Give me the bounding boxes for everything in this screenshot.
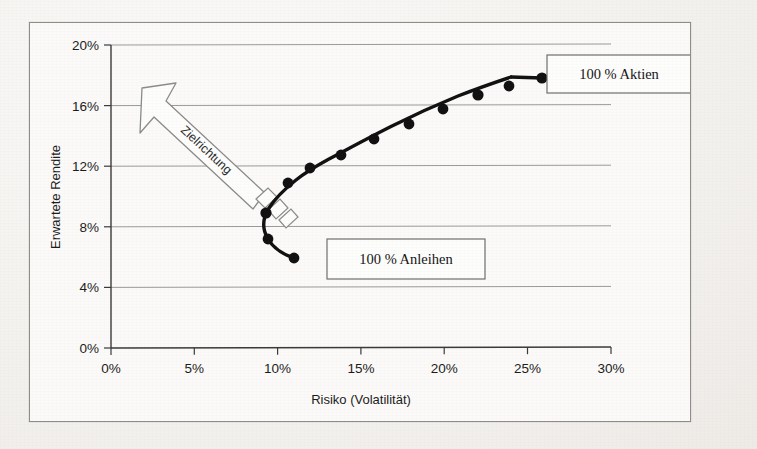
xtick-label-5: 5%: [185, 361, 205, 376]
data-point: [438, 104, 449, 115]
gridline-20: [111, 44, 611, 45]
callout-anleihen: 100 % Anleihen: [327, 239, 485, 279]
x-axis-title: Risiko (Volatilität): [311, 392, 411, 407]
y-axis-ticks: [104, 45, 111, 348]
chart-figure-frame: 20% 16% 12% 8% 4% 0% 0% 5% 10% 15% 20% 2…: [29, 22, 691, 422]
data-point: [289, 253, 300, 264]
y-axis-tick-labels: 20% 16% 12% 8% 4% 0%: [72, 38, 99, 356]
ytick-label-12: 12%: [72, 159, 99, 174]
xtick-label-10: 10%: [264, 361, 291, 376]
data-point: [336, 150, 347, 161]
data-point: [504, 81, 515, 92]
callout-aktien: 100 % Aktien: [547, 55, 690, 93]
efficient-frontier-chart: 20% 16% 12% 8% 4% 0% 0% 5% 10% 15% 20% 2…: [30, 23, 690, 421]
callout-anleihen-label: 100 % Anleihen: [359, 251, 453, 267]
chart-plot-wrapper: 20% 16% 12% 8% 4% 0% 0% 5% 10% 15% 20% 2…: [30, 23, 690, 421]
ytick-label-4: 4%: [79, 280, 99, 295]
callout-aktien-label: 100 % Aktien: [579, 66, 659, 82]
x-axis-tick-labels: 0% 5% 10% 15% 20% 25% 30%: [101, 361, 624, 376]
data-point: [283, 178, 294, 189]
data-point: [305, 163, 316, 174]
xtick-label-30: 30%: [597, 361, 624, 376]
data-point: [263, 234, 274, 245]
xtick-label-0: 0%: [101, 361, 121, 376]
data-point: [404, 119, 415, 130]
ytick-label-20: 20%: [72, 38, 99, 53]
ytick-label-0: 0%: [79, 341, 99, 356]
data-point: [260, 207, 271, 218]
xtick-label-15: 15%: [347, 361, 374, 376]
data-point: [472, 89, 483, 100]
y-axis-title: Erwartete Rendite: [48, 145, 63, 249]
plot-area-background: [111, 45, 611, 348]
data-point: [369, 134, 380, 145]
xtick-label-25: 25%: [514, 361, 541, 376]
efficient-frontier-line-tail: [511, 77, 542, 78]
ytick-label-8: 8%: [79, 220, 99, 235]
xtick-label-20: 20%: [431, 361, 458, 376]
ytick-label-16: 16%: [72, 99, 99, 114]
